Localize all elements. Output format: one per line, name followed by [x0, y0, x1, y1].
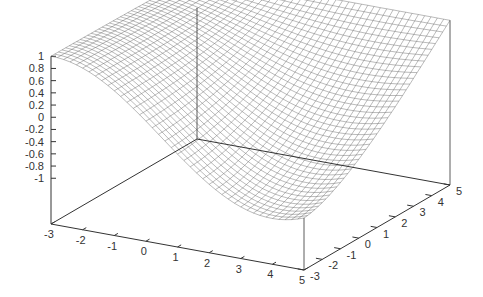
z-tick-label: 0.2 [29, 99, 44, 111]
z-tick-label: 0.6 [29, 75, 44, 87]
surface-mesh [51, 0, 450, 220]
z-tick-label: -0.8 [25, 160, 44, 172]
z-tick-label: -1 [34, 172, 44, 184]
y-tick-label: -3 [310, 270, 320, 282]
x-tick-label: 2 [204, 257, 210, 269]
x-tick-label: -1 [107, 240, 117, 252]
y-tick-label: 1 [383, 228, 389, 240]
z-tick-label: 0.4 [29, 87, 44, 99]
z-tick-label: 1 [38, 50, 44, 62]
y-tick-label: -2 [328, 259, 338, 271]
y-axis-ticks: -3-2-1012345 [298, 184, 462, 282]
z-tick-label: 0 [38, 111, 44, 123]
x-tick-label: 3 [236, 263, 242, 275]
surface-plot: 10.80.60.40.20-0.2-0.4-0.6-0.8-1 -3-2-10… [0, 0, 483, 297]
z-tick-label: -0.6 [25, 148, 44, 160]
x-tick-label: 1 [172, 251, 178, 263]
y-tick-label: 0 [365, 238, 371, 250]
x-tick-label: -3 [44, 228, 54, 240]
z-tick-label: -0.2 [25, 123, 44, 135]
x-tick-label: -2 [76, 234, 86, 246]
y-tick-label: 3 [420, 206, 426, 218]
y-tick-label: 5 [456, 185, 462, 197]
x-tick-label: 5 [299, 274, 305, 286]
z-tick-label: -0.4 [25, 136, 44, 148]
x-tick-label: 0 [141, 245, 147, 257]
y-tick-label: 2 [401, 217, 407, 229]
x-axis-ticks: -3-2-1012345 [44, 222, 308, 286]
z-tick-label: 0.8 [29, 62, 44, 74]
y-tick-label: 4 [438, 196, 444, 208]
y-tick-label: -1 [347, 249, 357, 261]
x-tick-label: 4 [267, 268, 273, 280]
